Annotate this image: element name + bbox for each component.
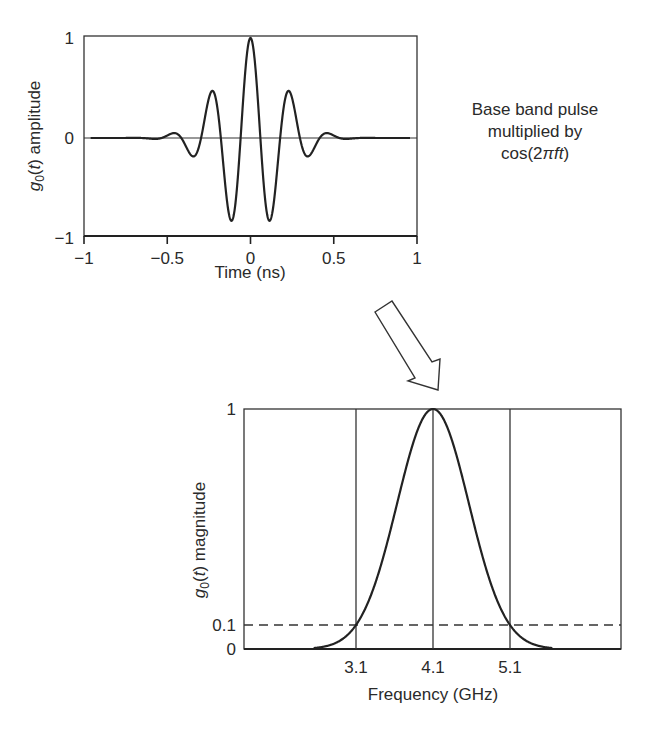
freq-reference-lines bbox=[356, 409, 510, 649]
freq-x-tick-label: 3.1 bbox=[344, 658, 368, 677]
annotation-line3: cos(2πft) bbox=[501, 144, 569, 163]
time-plot-frame bbox=[84, 36, 417, 236]
freq-x-ticks: 3.14.15.1 bbox=[344, 658, 522, 677]
freq-y-tick-label: 0.1 bbox=[212, 616, 236, 635]
hollow-arrow-down-right-icon bbox=[375, 301, 440, 390]
annotation-line1: Base band pulse bbox=[472, 100, 599, 119]
time-x-tick-label: 0.5 bbox=[322, 249, 346, 268]
freq-y-label: g0(t) magnitude bbox=[190, 482, 212, 598]
time-y-tick-label: −1 bbox=[55, 229, 74, 248]
frequency-domain-plot: 3.14.15.1 00.11 Frequency (GHz) g0(t) ma… bbox=[190, 400, 621, 704]
time-pulse-curve bbox=[91, 38, 410, 221]
time-domain-plot: −1−0.500.51 −101 Time (ns) g0(t) amplitu… bbox=[25, 29, 422, 282]
time-y-tick-label: 0 bbox=[65, 129, 74, 148]
annotation-line2: multiplied by bbox=[488, 122, 583, 141]
time-x-tick-label: 1 bbox=[412, 249, 421, 268]
freq-x-tick-label: 5.1 bbox=[498, 658, 522, 677]
freq-y-ticks: 00.11 bbox=[212, 400, 236, 659]
time-x-tick-label: −1 bbox=[74, 249, 93, 268]
figure-canvas: −1−0.500.51 −101 Time (ns) g0(t) amplitu… bbox=[0, 0, 648, 734]
time-x-label: Time (ns) bbox=[214, 263, 285, 282]
pulse-annotation: Base band pulse multiplied by cos(2πft) bbox=[472, 100, 599, 163]
time-y-label: g0(t) amplitude bbox=[25, 81, 47, 192]
freq-x-label: Frequency (GHz) bbox=[368, 685, 498, 704]
time-y-tick-label: 1 bbox=[65, 29, 74, 48]
time-x-tick-label: −0.5 bbox=[150, 249, 184, 268]
freq-y-tick-label: 0 bbox=[227, 640, 236, 659]
freq-x-tick-label: 4.1 bbox=[421, 658, 445, 677]
freq-y-tick-label: 1 bbox=[227, 400, 236, 419]
time-y-ticks: −101 bbox=[55, 29, 74, 248]
